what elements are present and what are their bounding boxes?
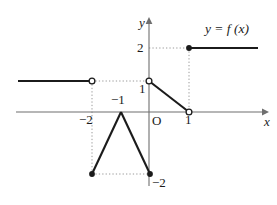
- filled-point-1-2: [186, 45, 192, 51]
- segment-descending: [149, 81, 189, 112]
- function-curve: [18, 48, 258, 174]
- curve-label: y = f (x): [205, 22, 249, 36]
- x-tick-label-1: 1: [185, 113, 192, 126]
- x-axis-label: x: [264, 115, 270, 128]
- y-tick-label-2: 2: [137, 41, 144, 54]
- x-tick-label-neg1: −1: [111, 93, 125, 106]
- open-point-0-1: [146, 78, 152, 84]
- segment-v-right-leg: [121, 112, 150, 174]
- y-tick-label-1: 1: [139, 82, 146, 95]
- filled-endpoints: [89, 45, 192, 177]
- segment-v-left-leg: [92, 112, 121, 174]
- y-axis-label: y: [139, 16, 145, 29]
- open-point-neg2-1: [89, 78, 95, 84]
- y-tick-label-neg2: −2: [152, 176, 166, 189]
- origin-label: O: [152, 114, 161, 127]
- x-tick-label-neg2: −2: [79, 113, 93, 126]
- y-axis-arrow: [146, 17, 153, 24]
- function-graph-figure: x y O y = f (x) −2 −1 1 1 2 −2: [0, 0, 277, 205]
- filled-point-neg2-neg2: [89, 171, 95, 177]
